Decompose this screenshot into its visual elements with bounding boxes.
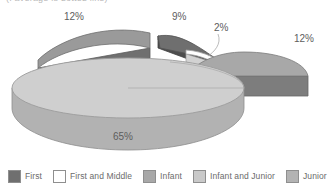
pie-label-junior: 12% [64,11,84,22]
legend-item-first[interactable]: First [8,170,42,183]
pie-chart-canvas [0,4,330,162]
pie-label-first-and-middle: 2% [214,22,228,33]
pie-label-first: 9% [172,11,186,22]
legend-swatch-first-icon [8,170,21,183]
legend-item-first-and-middle[interactable]: First and Middle [53,170,132,183]
legend-label-infant-and-junior: Infant and Junior [210,171,275,181]
legend-item-infant[interactable]: Infant [143,170,182,183]
pie-label-infant: 12% [294,33,314,44]
chart-legend: First First and Middle Infant Infant and… [0,166,330,186]
legend-swatch-infant-and-junior-icon [193,170,206,183]
pie-chart-svg [0,4,330,162]
pie-label-infant-and-junior: 65% [113,131,133,142]
legend-label-first-and-middle: First and Middle [70,171,132,181]
legend-label-junior: Junior [303,171,327,181]
legend-label-infant: Infant [160,171,182,181]
pie-chart-figure: (I average is dotted line) [0,0,330,194]
legend-label-first: First [25,171,42,181]
clipped-header-text: (I average is dotted line) [6,0,108,3]
leader-line-first-and-middle [208,34,219,56]
legend-item-infant-and-junior[interactable]: Infant and Junior [193,170,275,183]
legend-swatch-first-and-middle-icon [53,170,66,183]
legend-swatch-infant-icon [143,170,156,183]
legend-item-junior[interactable]: Junior [286,170,327,183]
legend-swatch-junior-icon [286,170,299,183]
